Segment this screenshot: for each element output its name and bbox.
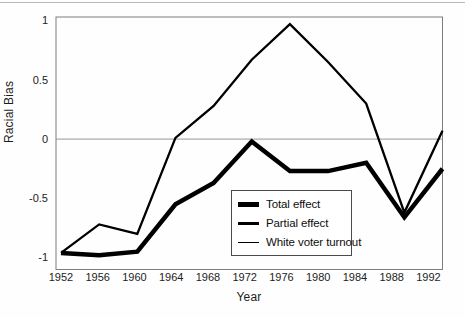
x-tick-label: 1964 xyxy=(159,271,183,283)
legend-label-partial-effect: Partial effect xyxy=(266,217,328,229)
x-tick-label: 1956 xyxy=(86,271,110,283)
legend-item-white-voter-turnout: White voter turnout xyxy=(238,236,351,248)
scan-edge-line xyxy=(0,2,465,3)
x-tick-label: 1988 xyxy=(380,271,404,283)
x-tick-label: 1952 xyxy=(49,271,73,283)
x-tick-label: 1980 xyxy=(306,271,330,283)
y-axis-title: Racial Bias xyxy=(2,81,16,143)
medium-line-swatch-icon xyxy=(238,222,259,225)
x-tick-label: 1984 xyxy=(343,271,367,283)
legend-label-total-effect: Total effect xyxy=(266,198,320,210)
x-tick-label: 1976 xyxy=(269,271,293,283)
y-tick-label: 0.5 xyxy=(33,74,48,86)
legend-item-partial-effect: Partial effect xyxy=(238,217,351,229)
chart-figure: 10.50-0.5-119521956196019641968197219761… xyxy=(0,0,465,317)
thin-line-swatch-icon xyxy=(238,242,259,243)
x-tick-label: 1992 xyxy=(416,271,440,283)
y-tick-label: 1 xyxy=(42,14,48,26)
y-tick-label: 0 xyxy=(42,133,48,145)
legend-item-total-effect: Total effect xyxy=(238,198,351,210)
x-axis-title: Year xyxy=(236,290,261,304)
legend: Total effect Partial effect White voter … xyxy=(231,190,352,256)
x-tick-label: 1968 xyxy=(196,271,220,283)
y-tick-label: -1 xyxy=(38,251,48,263)
y-tick-label: -0.5 xyxy=(29,192,48,204)
x-tick-label: 1972 xyxy=(233,271,257,283)
thick-line-swatch-icon xyxy=(238,202,259,207)
legend-label-white-voter-turnout: White voter turnout xyxy=(266,236,361,248)
plot-area: 10.50-0.5-119521956196019641968197219761… xyxy=(0,0,465,317)
x-tick-label: 1960 xyxy=(122,271,146,283)
